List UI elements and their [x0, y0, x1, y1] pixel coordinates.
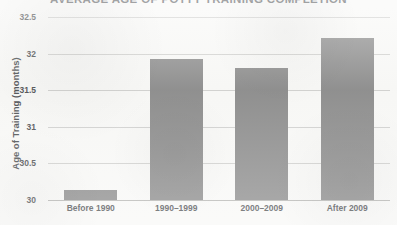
- bar[interactable]: [64, 190, 117, 200]
- x-tick-label: Before 1990: [48, 203, 134, 213]
- y-tick-label: 32.5: [0, 12, 36, 22]
- y-axis-title: Age of Training (months): [10, 29, 21, 199]
- bar[interactable]: [321, 38, 374, 200]
- chart-title: AVERAGE AGE OF POTTY TRAINING COMPLETION: [0, 0, 397, 5]
- bar[interactable]: [235, 68, 288, 200]
- x-tick-label: 2000–2009: [219, 203, 305, 213]
- gridline: [48, 200, 390, 201]
- x-tick-label: 1990–1999: [134, 203, 220, 213]
- x-axis-labels: Before 19901990–19992000–2009After 2009: [48, 203, 390, 219]
- bar[interactable]: [150, 59, 203, 200]
- bar-chart: AVERAGE AGE OF POTTY TRAINING COMPLETION…: [0, 0, 397, 225]
- bars-layer: [48, 17, 390, 200]
- x-tick-label: After 2009: [305, 203, 391, 213]
